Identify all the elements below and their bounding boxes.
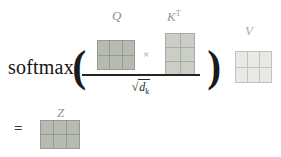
matrix-cell bbox=[110, 56, 121, 70]
equals-sign: = bbox=[14, 121, 23, 136]
attention-formula-diagram: softmax ( Q KT × √dk ) V = Z bbox=[0, 0, 281, 157]
matrix-cell bbox=[260, 52, 271, 67]
matrix-cell bbox=[123, 56, 134, 70]
matrix-cell bbox=[41, 135, 53, 148]
matrix-cell bbox=[98, 56, 109, 70]
matrix-cell bbox=[181, 48, 195, 61]
matrix-cell bbox=[123, 41, 134, 55]
matrix-cell bbox=[236, 52, 247, 67]
matrix-cell bbox=[260, 68, 271, 83]
z-matrix-label: Z bbox=[57, 106, 64, 119]
matrix-cell bbox=[67, 121, 79, 134]
matrix-cell bbox=[166, 34, 180, 47]
close-parenthesis: ) bbox=[207, 44, 221, 90]
softmax-label: softmax bbox=[8, 57, 74, 77]
matrix-cell bbox=[236, 68, 247, 83]
matrix-cell bbox=[54, 135, 66, 148]
matrix-cell bbox=[98, 41, 109, 55]
radicand: dk bbox=[138, 79, 150, 94]
v-matrix-grid bbox=[235, 51, 272, 83]
matrix-cell bbox=[67, 135, 79, 148]
matrix-cell bbox=[248, 52, 259, 67]
matrix-cell bbox=[54, 121, 66, 134]
matrix-cell bbox=[41, 121, 53, 134]
multiplication-sign: × bbox=[143, 49, 149, 60]
v-matrix-label: V bbox=[245, 24, 253, 37]
sqrt-dk-denominator: √dk bbox=[118, 80, 164, 99]
q-matrix-label: Q bbox=[112, 9, 121, 22]
z-matrix-grid bbox=[40, 120, 80, 149]
open-parenthesis: ( bbox=[72, 44, 86, 90]
matrix-cell bbox=[166, 48, 180, 61]
q-matrix-grid bbox=[97, 40, 135, 70]
matrix-cell bbox=[248, 68, 259, 83]
matrix-cell bbox=[110, 41, 121, 55]
kt-matrix-grid bbox=[165, 33, 195, 76]
matrix-cell bbox=[181, 34, 195, 47]
kt-matrix-label: KT bbox=[167, 7, 181, 23]
fraction-bar bbox=[82, 74, 200, 76]
